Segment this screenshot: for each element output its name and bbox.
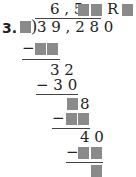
problem-number: 3. [2, 21, 17, 36]
partial-40: 4 0 [80, 130, 104, 145]
subtraction-line-2 [36, 94, 78, 95]
step5-blank-1[interactable] [66, 113, 77, 125]
step7-blank-1[interactable] [78, 147, 89, 159]
subtraction-line-4 [66, 162, 103, 163]
minus-sign-1: − [22, 41, 35, 56]
minus-sign-3: − [66, 145, 79, 160]
partial-8: 8 [80, 97, 90, 112]
quotient-blank-1[interactable] [78, 4, 89, 16]
step5-blank-2[interactable] [78, 113, 89, 125]
subtraction-line-1 [22, 59, 60, 60]
step1-blank-2[interactable] [47, 43, 58, 55]
step4-blank[interactable] [67, 98, 78, 110]
quotient-blank-2[interactable] [91, 4, 102, 16]
step1-blank-1[interactable] [35, 43, 46, 55]
minus-sign-2: − [52, 111, 65, 126]
remainder-label: R [107, 2, 118, 17]
final-remainder-blank[interactable] [91, 165, 102, 177]
step7-blank-2[interactable] [91, 147, 102, 159]
divisor-blank[interactable] [20, 21, 31, 33]
remainder-blank[interactable] [122, 4, 133, 16]
subtract-30: − 3 0 [36, 78, 77, 93]
dividend: 3 9 , 2 8 0 [37, 20, 113, 35]
